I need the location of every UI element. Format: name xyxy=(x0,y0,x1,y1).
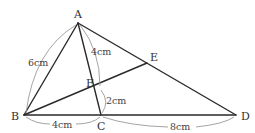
measure-bc: 4cm xyxy=(52,119,72,130)
point-label-f: F xyxy=(86,77,94,90)
point-label-c: C xyxy=(97,120,105,133)
measure-cd: 8cm xyxy=(170,121,190,132)
measure-fc: 2cm xyxy=(106,95,126,106)
segment-ad xyxy=(78,23,236,115)
segment-ab xyxy=(24,23,78,115)
arc-bc-left xyxy=(26,117,50,124)
point-label-d: D xyxy=(241,110,250,123)
point-label-a: A xyxy=(73,8,83,21)
geometry-diagram: A B C D E F 6cm 4cm 2cm 4cm 8cm xyxy=(0,0,255,133)
point-label-b: B xyxy=(11,110,19,123)
point-label-e: E xyxy=(150,51,158,64)
arc-cd-right xyxy=(196,117,234,127)
segment-ac xyxy=(78,23,101,115)
arc-cd-left xyxy=(103,117,168,127)
measure-af: 4cm xyxy=(91,46,111,57)
measure-ab: 6cm xyxy=(28,57,48,68)
